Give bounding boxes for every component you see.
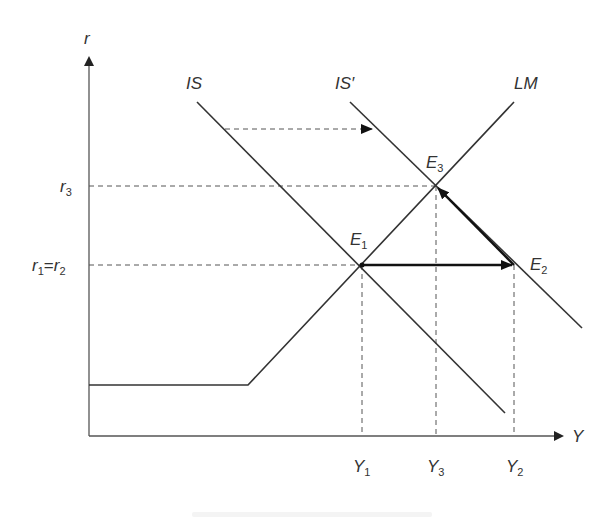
y2-label: Y2: [506, 457, 523, 478]
r3-label: r3: [60, 177, 72, 198]
is-prime-label: IS′: [335, 74, 355, 93]
e3-label: E3: [426, 153, 443, 174]
r1-equals-r2-label: r1=r2: [32, 256, 66, 277]
x-axis-label: Y: [572, 427, 585, 446]
axes: [89, 58, 562, 436]
y1-label: Y1: [353, 457, 370, 478]
faint-caption: [192, 512, 432, 517]
y-axis-label: r: [84, 29, 91, 48]
lm-curve: [89, 102, 514, 385]
is-label: IS: [186, 74, 203, 93]
guide-lines: [89, 186, 514, 436]
e2-to-e3-arrow: [438, 188, 514, 265]
is-lm-diagram: r Y IS IS′ LM E1 E2 E3 r3 r1=r2 Y1: [0, 0, 615, 522]
e2-label: E2: [530, 255, 547, 276]
y3-label: Y3: [427, 457, 444, 478]
e1-label: E1: [350, 230, 367, 251]
is-curve: [197, 102, 505, 413]
lm-label: LM: [514, 74, 538, 93]
e1-point: [360, 263, 365, 268]
